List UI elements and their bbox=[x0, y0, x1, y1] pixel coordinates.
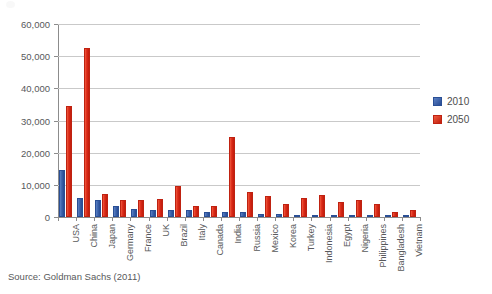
y-axis-labels: 010,00020,00030,00040,00050,00060,000 bbox=[0, 0, 54, 294]
x-tick-mark bbox=[275, 217, 276, 221]
x-tick-mark bbox=[420, 217, 421, 221]
legend-label: 2010 bbox=[447, 96, 469, 107]
y-tick-mark bbox=[54, 56, 58, 57]
x-tick-mark bbox=[185, 217, 186, 221]
x-tick-mark bbox=[130, 217, 131, 221]
y-tick-mark bbox=[54, 24, 58, 25]
x-tick-mark bbox=[221, 217, 222, 221]
x-tick-mark bbox=[366, 217, 367, 221]
bar-usa-2050 bbox=[66, 106, 72, 217]
x-tick-mark bbox=[239, 217, 240, 221]
bar-group bbox=[94, 24, 112, 217]
y-tick-label: 40,000 bbox=[0, 83, 54, 94]
x-tick-mark bbox=[94, 217, 95, 221]
x-tick-mark bbox=[402, 217, 403, 221]
y-tick-mark bbox=[54, 185, 58, 186]
bar-group bbox=[167, 24, 185, 217]
x-tick-mark bbox=[112, 217, 113, 221]
plot-area bbox=[58, 24, 420, 217]
legend-label: 2050 bbox=[447, 114, 469, 125]
x-tick-mark bbox=[58, 217, 59, 221]
legend-item-2010[interactable]: 2010 bbox=[433, 94, 489, 109]
x-tick-label: USA bbox=[71, 205, 81, 224]
source-note: Source: Goldman Sachs (2011) bbox=[8, 271, 140, 282]
legend-item-2050[interactable]: 2050 bbox=[433, 112, 489, 127]
y-tick-mark bbox=[54, 121, 58, 122]
y-tick-label: 0 bbox=[0, 212, 54, 223]
x-tick-mark bbox=[293, 217, 294, 221]
chart-figure: 010,00020,00030,00040,00050,00060,000 US… bbox=[0, 0, 492, 294]
y-tick-mark bbox=[54, 88, 58, 89]
bar-group bbox=[185, 24, 203, 217]
bar-group bbox=[76, 24, 94, 217]
y-tick-label: 10,000 bbox=[0, 179, 54, 190]
x-tick-mark bbox=[257, 217, 258, 221]
x-tick-mark bbox=[348, 217, 349, 221]
y-tick-label: 20,000 bbox=[0, 147, 54, 158]
x-tick-mark bbox=[76, 217, 77, 221]
bar-group bbox=[348, 24, 366, 217]
bar-china-2050 bbox=[84, 48, 90, 217]
bar-group bbox=[221, 24, 239, 217]
y-tick-label: 60,000 bbox=[0, 19, 54, 30]
chart-legend: 20102050 bbox=[433, 94, 489, 130]
x-tick-mark bbox=[149, 217, 150, 221]
bar-group bbox=[293, 24, 311, 217]
x-tick-label: India bbox=[233, 204, 243, 224]
bar-group bbox=[58, 24, 76, 217]
bar-usa-2010 bbox=[59, 170, 65, 217]
x-tick-mark bbox=[311, 217, 312, 221]
x-tick-mark bbox=[167, 217, 168, 221]
x-tick-mark bbox=[384, 217, 385, 221]
bar-group bbox=[257, 24, 275, 217]
bar-group bbox=[149, 24, 167, 217]
y-tick-label: 30,000 bbox=[0, 115, 54, 126]
legend-swatch-2050 bbox=[433, 115, 442, 124]
y-tick-label: 50,000 bbox=[0, 51, 54, 62]
bar-group bbox=[203, 24, 221, 217]
legend-swatch-2010 bbox=[433, 97, 442, 106]
bar-group bbox=[275, 24, 293, 217]
x-tick-mark bbox=[330, 217, 331, 221]
y-tick-mark bbox=[54, 153, 58, 154]
bar-group bbox=[239, 24, 257, 217]
x-tick-mark bbox=[203, 217, 204, 221]
y-tick-mark bbox=[54, 217, 58, 218]
x-tick-label: Italy bbox=[197, 207, 207, 224]
